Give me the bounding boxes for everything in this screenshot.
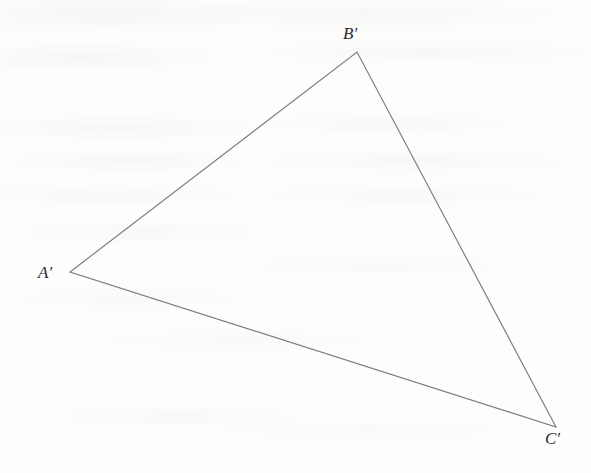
vertex-label-a-prime: A′	[38, 264, 52, 281]
triangle-outline	[70, 52, 556, 427]
vertex-label-c-prime: C′	[545, 430, 560, 447]
vertex-label-b-prime: B′	[343, 25, 357, 42]
triangle-figure	[0, 0, 591, 473]
figure-page: A′ B′ C′	[0, 0, 591, 473]
